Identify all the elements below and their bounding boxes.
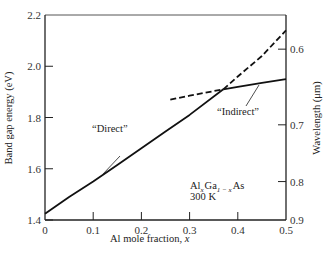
right-tick-label: 0.8 bbox=[290, 176, 304, 188]
right-tick-label: 0.7 bbox=[290, 119, 304, 131]
y-tick-label: 2.0 bbox=[27, 60, 41, 72]
right-tick-label: 0.9 bbox=[290, 214, 304, 226]
right-axis-title: Wavelength (μm) bbox=[311, 81, 323, 155]
temperature-label: 300 K bbox=[190, 191, 216, 202]
right-axis-ticks: 0.60.70.80.9 bbox=[278, 43, 304, 226]
series-group bbox=[45, 30, 286, 213]
indirect-arrow bbox=[246, 85, 259, 106]
y-axis-ticks: 1.41.61.82.02.2 bbox=[27, 9, 53, 226]
indirect-label: “Indirect” bbox=[217, 106, 259, 117]
x-tick-label: 0 bbox=[42, 224, 48, 236]
y-tick-label: 2.2 bbox=[27, 9, 41, 21]
x-tick-label: 0.1 bbox=[86, 224, 100, 236]
direct-label: “Direct” bbox=[92, 123, 128, 134]
right-tick-label: 0.6 bbox=[290, 43, 304, 55]
y-tick-label: 1.6 bbox=[27, 163, 41, 175]
y-axis-title: Band gap energy (eV) bbox=[3, 71, 15, 164]
x-tick-label: 0.4 bbox=[231, 224, 245, 236]
band-gap-chart: 1.41.61.82.02.2 00.10.20.30.40.5 0.60.70… bbox=[0, 0, 330, 256]
y-tick-label: 1.8 bbox=[27, 112, 41, 124]
y-tick-label: 1.4 bbox=[27, 214, 41, 226]
x-axis-title: Al mole fraction, x bbox=[110, 233, 190, 244]
